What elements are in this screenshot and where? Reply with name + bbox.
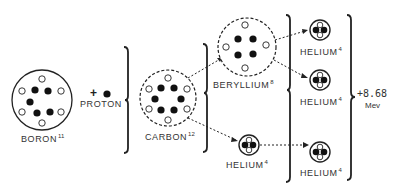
- helium-nucleus-4: [310, 142, 330, 162]
- energy-unit: Mev: [365, 102, 380, 110]
- boron-nucleus: [12, 70, 72, 130]
- arrow-carbon-to-helium: [188, 118, 236, 140]
- beryllium-nucleus: [218, 18, 276, 76]
- carbon-label: CARBON12: [145, 131, 195, 142]
- helium-label-2: HELIUM4: [300, 46, 342, 57]
- beryllium-label: BERYLLIUM8: [213, 79, 274, 90]
- helium-nucleus-3: [310, 70, 330, 90]
- proton-label: PROTON: [80, 100, 122, 109]
- proton-particle: [103, 90, 110, 97]
- carbon-nucleus: [140, 70, 196, 126]
- brace-beryllium-split: [286, 15, 290, 182]
- fusion-reaction-diagram: BORON11 + PROTON CARBON12 BERYLLIUM8 HEL…: [0, 0, 411, 191]
- helium-label-1: HELIUM4: [226, 159, 268, 170]
- boron-label: BORON11: [21, 133, 64, 144]
- brace-reactants: [124, 47, 128, 153]
- helium-label-4: HELIUM4: [300, 167, 342, 178]
- diagram-graphics: [0, 0, 411, 191]
- brace-energy: [347, 15, 355, 180]
- plus-sign: +: [90, 87, 97, 99]
- arrow-carbon-to-beryllium: [188, 58, 222, 78]
- helium-nucleus-1: [239, 135, 259, 155]
- helium-label-3: HELIUM4: [300, 96, 342, 107]
- helium-nucleus-2: [310, 20, 330, 40]
- energy-value: +8.68: [357, 89, 387, 99]
- brace-carbon-split: [203, 44, 207, 152]
